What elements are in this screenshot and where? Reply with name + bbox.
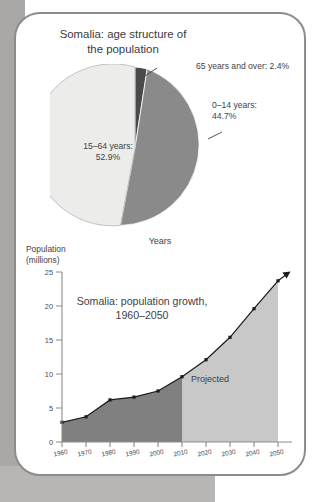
pie-label-65-and-over-text: 65 years and over: 2.4%	[196, 61, 289, 72]
pie-label-15-64: 15–64 years: 52.9%	[69, 141, 147, 163]
x-tick-label-2040: 2040	[245, 448, 261, 458]
population-growth-graphic: 0 5 10 15 20 25 1960 1970	[16, 236, 304, 476]
y-tick-label-5: 5	[49, 404, 53, 413]
data-point-2010	[180, 375, 183, 378]
pie-label-15-64-line-2: 52.9%	[69, 152, 147, 163]
x-tick-label-1990: 1990	[125, 448, 141, 458]
data-point-2030	[228, 336, 231, 339]
pie-label-65-and-over: 65 years and over: 2.4%	[196, 61, 289, 72]
data-point-1990	[132, 396, 135, 399]
x-tick-label-1980: 1980	[101, 448, 117, 458]
y-tick-label-10: 10	[45, 370, 53, 379]
y-tick-label-0: 0	[49, 438, 53, 447]
data-point-1980	[108, 398, 111, 401]
x-tick-label-2000: 2000	[149, 448, 165, 458]
pie-chart-title-line-1: Somalia: age structure of	[28, 27, 218, 42]
data-point-1970	[84, 415, 87, 418]
figure-panel: Somalia: age structure of the population…	[14, 12, 306, 476]
pie-chart-title-line-2: the population	[28, 42, 218, 57]
area-historical	[62, 377, 182, 442]
x-tick-label-2010: 2010	[173, 448, 189, 458]
y-tick-label-20: 20	[45, 302, 53, 311]
pie-chart-figure: Somalia: age structure of the population…	[16, 14, 304, 236]
data-point-2050	[276, 279, 279, 282]
y-tick-label-25: 25	[45, 268, 53, 277]
population-growth-figure: Population (millions) Somalia: populatio…	[16, 236, 304, 476]
pie-label-0-14: 0–14 years: 44.7%	[212, 100, 257, 122]
x-tick-label-2050: 2050	[269, 448, 285, 458]
x-tick-label-2020: 2020	[197, 448, 213, 458]
data-point-2040	[252, 307, 255, 310]
pie-label-0-14-line-1: 0–14 years:	[212, 100, 257, 111]
x-tick-label-2030: 2030	[221, 448, 237, 458]
x-tick-label-1970: 1970	[77, 448, 93, 458]
data-point-2020	[204, 358, 207, 361]
leader-line-0-14	[208, 132, 222, 139]
x-tick-label-1960: 1960	[53, 448, 69, 458]
data-point-2000	[156, 389, 159, 392]
y-tick-label-15: 15	[45, 336, 53, 345]
y-axis-ticks: 0 5 10 15 20 25	[45, 268, 62, 447]
area-projected	[182, 281, 278, 442]
projected-annotation-label: Projected	[191, 374, 229, 384]
pie-chart-title: Somalia: age structure of the population	[28, 27, 218, 57]
x-axis-ticks: 1960 1970 1980 1990 2000 2010 2020 2030 …	[53, 442, 285, 457]
pie-label-15-64-line-1: 15–64 years:	[69, 141, 147, 152]
pie-label-0-14-line-2: 44.7%	[212, 111, 257, 122]
